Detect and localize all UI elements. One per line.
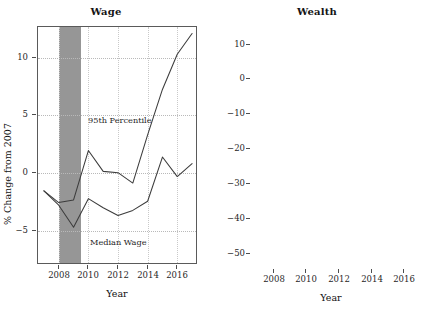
panel-wage-title: Wage [0, 6, 212, 17]
y-tick-mark-wealth-3 [246, 148, 250, 149]
y-tick-mark-wealth-4 [246, 183, 250, 184]
x-tick-mark-wage-1 [87, 265, 88, 269]
y-tick-label-wealth-3: −20 [217, 144, 245, 153]
y-tick-mark-wealth-5 [246, 218, 250, 219]
x-tick-label-wage-0: 2008 [44, 271, 74, 280]
x-tick-mark-wage-4 [176, 265, 177, 269]
x-tick-label-wage-1: 2010 [73, 271, 103, 280]
y-tick-label-wealth-5: −40 [217, 214, 245, 223]
x-tick-mark-wealth-3 [371, 269, 372, 273]
x-tick-label-wage-2: 2012 [103, 271, 133, 280]
panel-wealth: Wealth 10 0 −10 −20 −30 −40 −50 [211, 0, 423, 313]
x-tick-mark-wage-2 [117, 265, 118, 269]
x-axis-title-wealth: Year [250, 292, 412, 303]
y-tick-mark-wealth-6 [246, 253, 250, 254]
x-tick-label-wealth-2: 2012 [324, 275, 354, 284]
y-tick-mark-wage-2 [32, 172, 36, 173]
chart-figure: Wage % Change from 2007 10 5 0 −5 [0, 0, 423, 313]
y-tick-mark-wealth-1 [246, 78, 250, 79]
y-tick-label-wealth-1: 0 [217, 74, 245, 83]
x-tick-label-wage-3: 2014 [133, 271, 163, 280]
y-tick-label-wage-1: 5 [6, 110, 28, 119]
series-lines-wage [38, 27, 197, 264]
x-tick-label-wealth-4: 2016 [389, 275, 419, 284]
y-tick-mark-wealth-2 [246, 113, 250, 114]
y-tick-label-wealth-4: −30 [217, 179, 245, 188]
y-tick-mark-wage-3 [32, 230, 36, 231]
y-tick-label-wage-0: 10 [6, 53, 28, 62]
series-annotation-wage-median: Median Wage [90, 237, 147, 247]
series-annotation-wage-p95: 95th Percentile [88, 115, 152, 125]
y-tick-label-wage-3: −5 [6, 226, 28, 235]
y-tick-label-wage-2: 0 [6, 168, 28, 177]
y-tick-mark-wage-0 [32, 57, 36, 58]
x-axis-title-wage: Year [37, 288, 197, 299]
x-tick-mark-wealth-4 [403, 269, 404, 273]
x-tick-label-wage-4: 2016 [162, 271, 192, 280]
y-tick-label-wealth-2: −10 [217, 109, 245, 118]
x-tick-mark-wealth-0 [273, 269, 274, 273]
y-tick-label-wealth-0: 10 [217, 40, 245, 49]
x-tick-mark-wage-0 [58, 265, 59, 269]
y-tick-label-wealth-6: −50 [217, 249, 245, 258]
plot-area-wage: 95th Percentile Median Wage [37, 26, 197, 264]
y-tick-mark-wealth-0 [246, 44, 250, 45]
x-tick-label-wealth-0: 2008 [259, 275, 289, 284]
y-tick-mark-wage-1 [32, 114, 36, 115]
x-tick-mark-wealth-2 [338, 269, 339, 273]
x-tick-mark-wage-3 [147, 265, 148, 269]
panel-wage: Wage % Change from 2007 10 5 0 −5 [0, 0, 212, 313]
x-tick-label-wealth-3: 2014 [357, 275, 387, 284]
x-tick-mark-wealth-1 [305, 269, 306, 273]
series-line-wage-median [44, 157, 192, 227]
panel-wealth-title: Wealth [211, 6, 423, 17]
x-tick-label-wealth-1: 2010 [291, 275, 321, 284]
